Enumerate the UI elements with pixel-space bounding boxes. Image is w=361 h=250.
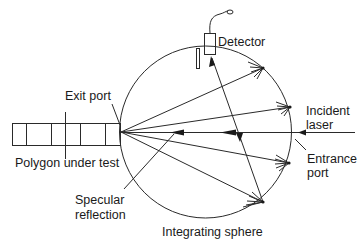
specular-reflection-label-line2: reflection (75, 208, 126, 222)
fan-upper (248, 62, 263, 79)
fan-lower-right (275, 155, 289, 171)
specular-reflection-label-line1: Specular (75, 193, 124, 207)
arrowhead-icon (298, 130, 306, 136)
polygon-under-test (13, 112, 121, 158)
incident-laser-label-line1: Incident (306, 104, 350, 118)
scattered-rays (121, 56, 290, 202)
arrowhead-icon (170, 130, 184, 136)
integrating-sphere-label: Integrating sphere (162, 225, 263, 239)
entrance-port-label-line2: port (307, 166, 329, 180)
integrating-sphere-diagram: Detector Exit port Incident laser Polygo… (0, 0, 361, 250)
ray-fan-arrows (243, 62, 290, 207)
entrance-port-label-line1: Entrance (307, 152, 357, 166)
incident-laser-label-line2: laser (306, 118, 333, 132)
baffle (197, 49, 200, 69)
polygon-label: Polygon under test (15, 156, 119, 170)
specular-leader (124, 134, 174, 189)
exit-port-leader (112, 104, 120, 125)
detector-label: Detector (218, 35, 265, 49)
arrowhead-icon (220, 130, 236, 136)
arrowhead-icon (236, 133, 243, 142)
entrance-port-leader (295, 139, 306, 150)
exit-port-label: Exit port (65, 89, 111, 103)
